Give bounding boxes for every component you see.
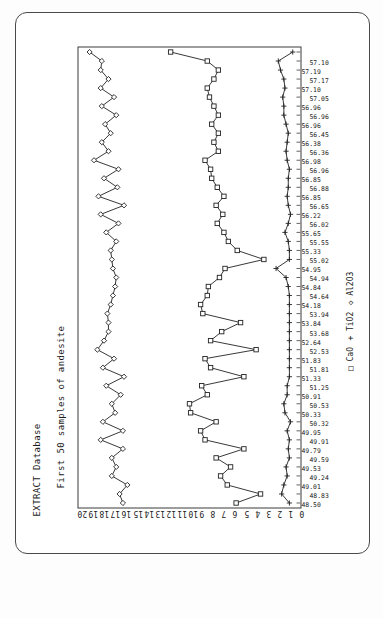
data-point-marker bbox=[113, 274, 118, 279]
x-tick-label: 56.98 bbox=[301, 158, 320, 165]
data-point-marker bbox=[238, 320, 242, 324]
legend-marker-icon: ◇ bbox=[346, 298, 354, 306]
y-tick-label: 2 bbox=[277, 508, 282, 516]
data-point-marker bbox=[99, 139, 104, 144]
data-point-marker bbox=[187, 401, 191, 405]
y-tick-label: 4 bbox=[255, 508, 260, 516]
x-tick-label: 57.19 bbox=[301, 68, 320, 75]
x-tick-label: 52.53 bbox=[309, 348, 328, 355]
data-point-marker bbox=[205, 58, 209, 62]
x-tick-label: 48.50 bbox=[301, 501, 320, 508]
y-tick-label: 9 bbox=[199, 508, 204, 516]
x-tick-label: 54.84 bbox=[301, 284, 320, 291]
data-point-marker bbox=[124, 482, 129, 487]
data-point-marker bbox=[208, 365, 212, 369]
data-point-marker bbox=[284, 383, 289, 388]
data-point-marker bbox=[235, 248, 239, 252]
data-point-marker bbox=[284, 193, 289, 198]
legend-label: TiO2 bbox=[345, 311, 354, 330]
x-tick-label: 57.17 bbox=[309, 77, 328, 84]
data-point-marker bbox=[225, 482, 229, 486]
legend-marker-icon: + bbox=[346, 334, 354, 342]
y-tick-label: 15 bbox=[133, 508, 143, 516]
x-tick-label: 56.85 bbox=[301, 194, 320, 201]
x-tick-label: 50.53 bbox=[309, 402, 328, 409]
legend-item-al2o3: ◇Al2O3 bbox=[345, 271, 354, 306]
x-tick-label: 56.02 bbox=[309, 221, 328, 228]
y-tick-label: 16 bbox=[121, 508, 131, 516]
data-point-marker bbox=[110, 292, 115, 297]
legend-item-cao: □CaO bbox=[345, 347, 354, 372]
x-tick-label: 49.91 bbox=[309, 438, 328, 445]
data-point-marker bbox=[208, 167, 212, 171]
data-point-marker bbox=[202, 158, 206, 162]
x-tick-label: 53.94 bbox=[309, 311, 328, 318]
data-point-marker bbox=[215, 185, 219, 189]
data-point-marker bbox=[286, 329, 291, 334]
x-tick-label: 55.55 bbox=[309, 239, 328, 246]
data-point-marker bbox=[105, 329, 110, 334]
y-tick-label: 12 bbox=[166, 508, 176, 516]
data-point-marker bbox=[95, 193, 100, 198]
chart-subtitle: First 50 samples of andesite bbox=[55, 325, 65, 488]
data-point-marker bbox=[216, 149, 220, 153]
x-tick-label: 56.45 bbox=[309, 131, 328, 138]
data-point-marker bbox=[281, 112, 286, 117]
x-tick-label: 57.10 bbox=[309, 59, 328, 66]
data-point-marker bbox=[116, 491, 121, 496]
data-point-marker bbox=[118, 392, 123, 397]
data-point-marker bbox=[205, 293, 209, 297]
data-point-marker bbox=[211, 76, 215, 80]
x-tick-label: 56.96 bbox=[301, 104, 320, 111]
data-point-marker bbox=[206, 284, 210, 288]
x-axis-tick-labels: 48.5048.8349.0149.2449.5349.5949.7949.91… bbox=[301, 48, 347, 508]
legend-label: Al2O3 bbox=[345, 271, 354, 295]
data-point-marker bbox=[221, 230, 225, 234]
data-point-marker bbox=[283, 148, 288, 153]
data-point-marker bbox=[202, 356, 206, 360]
x-tick-label: 48.83 bbox=[309, 492, 328, 499]
chart-page: EXTRACT Database First 50 samples of and… bbox=[0, 0, 383, 618]
data-point-marker bbox=[108, 130, 113, 135]
x-tick-label: 49.95 bbox=[301, 429, 320, 436]
series-line-tio2 bbox=[276, 52, 293, 503]
x-tick-label: 54.18 bbox=[301, 302, 320, 309]
x-tick-label: 54.64 bbox=[309, 293, 328, 300]
data-point-marker bbox=[200, 311, 204, 315]
x-tick-label: 51.33 bbox=[301, 375, 320, 382]
y-tick-label: 10 bbox=[188, 508, 198, 516]
data-point-marker bbox=[258, 491, 262, 495]
x-tick-label: 51.81 bbox=[309, 366, 328, 373]
y-tick-label: 13 bbox=[155, 508, 165, 516]
data-point-marker bbox=[280, 94, 285, 99]
data-point-marker bbox=[105, 319, 110, 324]
data-point-marker bbox=[286, 310, 291, 315]
y-tick-label: 11 bbox=[177, 508, 187, 516]
data-point-marker bbox=[98, 67, 103, 72]
data-point-marker bbox=[286, 365, 291, 370]
data-point-marker bbox=[209, 176, 213, 180]
data-point-marker bbox=[222, 266, 226, 270]
data-point-marker bbox=[100, 365, 105, 370]
y-tick-label: 1 bbox=[288, 508, 293, 516]
chart-legend: □CaO+TiO2◇Al2O3 bbox=[345, 271, 354, 372]
x-tick-label: 55.65 bbox=[301, 230, 320, 237]
data-point-marker bbox=[188, 410, 192, 414]
data-point-marker bbox=[209, 121, 213, 125]
data-point-marker bbox=[286, 301, 291, 306]
x-tick-label: 56.96 bbox=[309, 113, 328, 120]
data-point-marker bbox=[109, 256, 114, 261]
data-point-marker bbox=[108, 301, 113, 306]
data-point-marker bbox=[87, 49, 92, 54]
x-tick-label: 50.33 bbox=[301, 411, 320, 418]
x-tick-label: 56.22 bbox=[301, 212, 320, 219]
y-tick-label: 14 bbox=[144, 508, 154, 516]
data-point-marker bbox=[241, 446, 245, 450]
data-point-marker bbox=[218, 473, 222, 477]
legend-marker-icon: □ bbox=[346, 364, 354, 372]
data-point-marker bbox=[213, 455, 217, 459]
x-tick-label: 49.59 bbox=[309, 456, 328, 463]
y-tick-label: 19 bbox=[88, 508, 98, 516]
x-tick-label: 56.36 bbox=[309, 149, 328, 156]
data-point-marker bbox=[286, 338, 291, 343]
